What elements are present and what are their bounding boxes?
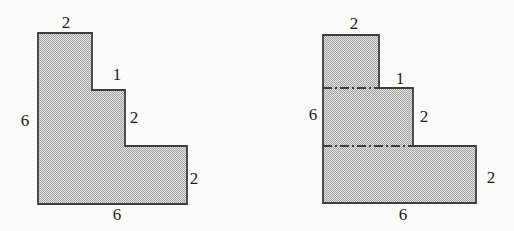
dim-label-step: 1 — [396, 69, 405, 88]
figure-staircase-solid: 2 1 2 6 2 6 — [21, 13, 199, 224]
dim-label-left: 6 — [21, 111, 30, 130]
dim-label-bottom: 6 — [113, 205, 122, 224]
staircase-shape — [38, 33, 187, 204]
dim-label-top: 2 — [350, 14, 359, 33]
dim-label-middle-right: 2 — [130, 108, 139, 127]
staircase-diagrams: 2 1 2 6 2 6 2 1 2 6 2 6 — [0, 0, 514, 231]
dim-label-right: 2 — [190, 169, 199, 188]
dim-label-left: 6 — [309, 105, 318, 124]
dim-label-step: 1 — [113, 65, 122, 84]
worksheet-figure: 2 1 2 6 2 6 2 1 2 6 2 6 — [0, 0, 514, 231]
dim-label-right: 2 — [487, 168, 496, 187]
dim-label-bottom: 6 — [399, 205, 408, 224]
staircase-shape — [323, 35, 476, 203]
dim-label-top: 2 — [62, 13, 71, 32]
dim-label-middle-right: 2 — [420, 107, 429, 126]
figure-staircase-partitioned: 2 1 2 6 2 6 — [309, 14, 496, 224]
